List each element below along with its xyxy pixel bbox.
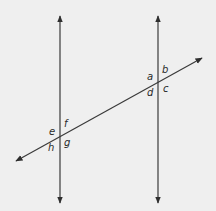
angle-label-a: a [147,71,153,82]
diagram-svg: a b c d f e g h [0,0,216,211]
angle-label-d: d [147,87,154,98]
angle-label-e: e [49,126,55,137]
angle-label-g: g [64,137,70,148]
parallel-lines-transversal-diagram: a b c d f e g h [0,0,216,211]
angle-label-b: b [162,64,168,75]
angle-label-f: f [64,118,69,129]
angle-label-h: h [48,142,54,153]
angle-label-c: c [163,83,169,94]
transversal-line [16,58,202,161]
